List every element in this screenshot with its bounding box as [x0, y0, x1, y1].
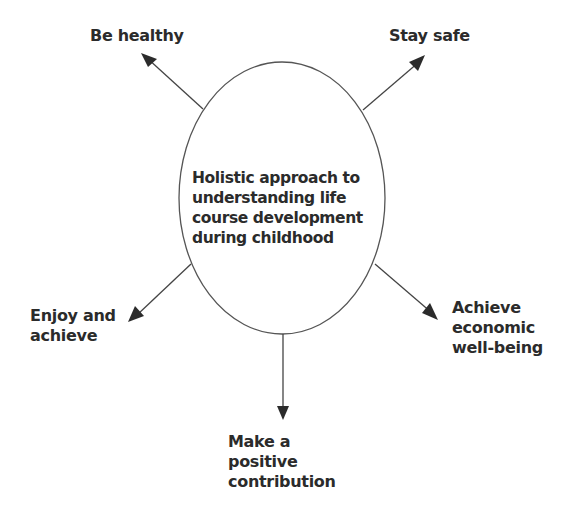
- outcome-stay-safe: Stay safe: [389, 26, 470, 46]
- arrow-achieve-economic-well-being: [375, 264, 438, 320]
- arrow-enjoy-and-achieve: [128, 264, 191, 322]
- outcome-be-healthy: Be healthy: [90, 26, 184, 46]
- diagram-canvas: Holistic approach to understanding life …: [0, 0, 575, 518]
- arrow-stay-safe: [363, 55, 425, 110]
- outcome-make-a-positive-contribution: Make a positive contribution: [228, 432, 336, 492]
- arrow-be-healthy: [141, 53, 203, 109]
- outcome-achieve-economic-well-being: Achieve economic well-being: [452, 298, 543, 358]
- outcome-enjoy-and-achieve: Enjoy and achieve: [30, 306, 116, 346]
- center-label: Holistic approach to understanding life …: [192, 168, 382, 248]
- arrow-make-a-positive-contribution: [277, 334, 289, 420]
